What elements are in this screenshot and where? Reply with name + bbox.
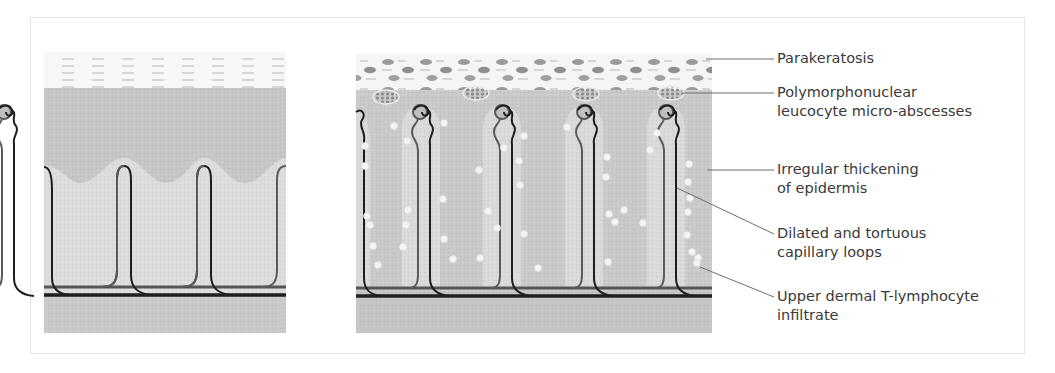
label-text: Parakeratosis — [777, 49, 874, 68]
label-text: leucocyte micro-abscesses — [777, 102, 972, 121]
label-lymphocyte-infiltrate: Upper dermal T-lymphocyte infiltrate — [777, 287, 979, 325]
label-epidermis-thickening: Irregular thickening of epidermis — [777, 160, 919, 198]
label-text: infiltrate — [777, 306, 979, 325]
label-text: Upper dermal T-lymphocyte — [777, 287, 979, 306]
normal-skin-panel — [44, 52, 286, 333]
parakeratosis-layer — [356, 56, 712, 90]
label-micro-abscesses: Polymorphonuclear leucocyte micro-absces… — [777, 83, 972, 121]
label-text: capillary loops — [777, 243, 926, 262]
label-capillary-loops: Dilated and tortuous capillary loops — [777, 224, 926, 262]
label-text: Dilated and tortuous — [777, 224, 926, 243]
label-parakeratosis: Parakeratosis — [777, 49, 874, 68]
label-text: of epidermis — [777, 179, 919, 198]
label-text: Polymorphonuclear — [777, 83, 972, 102]
label-text: Irregular thickening — [777, 160, 919, 179]
